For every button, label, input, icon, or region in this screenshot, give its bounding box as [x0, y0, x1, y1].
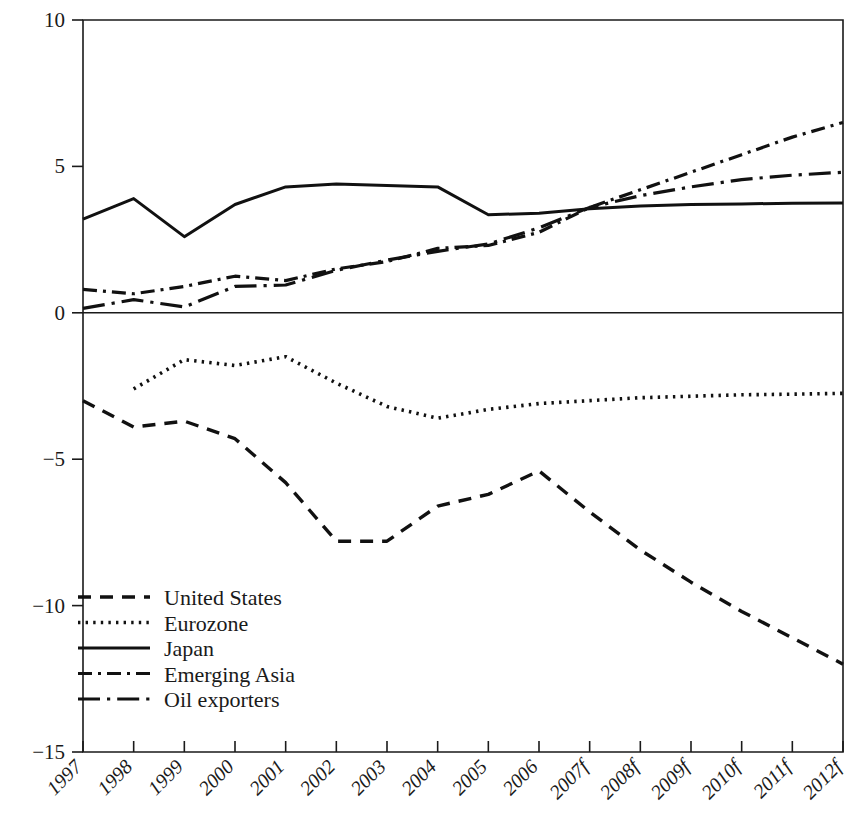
- legend-label-japan: Japan: [164, 636, 214, 661]
- y-tick-label: 10: [44, 8, 65, 32]
- y-tick-label: 5: [55, 154, 66, 178]
- y-tick-label: −5: [43, 447, 65, 471]
- y-tick-label: −15: [32, 740, 65, 764]
- y-tick-label: 0: [55, 301, 66, 325]
- legend-label-united-states: United States: [164, 585, 282, 610]
- chart-background: [0, 0, 859, 819]
- line-chart: 1050−5−10−15 199719981999200020012002200…: [0, 0, 859, 819]
- legend-label-eurozone: Eurozone: [164, 611, 248, 636]
- legend-label-emerging-asia: Emerging Asia: [164, 662, 295, 687]
- y-tick-label: −10: [32, 594, 65, 618]
- legend-label-oil-exporters: Oil exporters: [164, 687, 279, 712]
- chart-container: 1050−5−10−15 199719981999200020012002200…: [0, 0, 859, 819]
